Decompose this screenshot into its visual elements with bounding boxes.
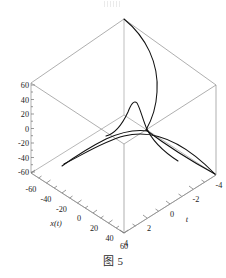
figure-caption: 图 5 [0,252,226,268]
xlabel-m60: -60 [26,185,37,194]
xtick-minor-b [54,186,57,188]
ttick-4 [120,230,124,233]
xlabel-0: 0 [77,214,81,223]
tlabel-4: 4 [124,239,128,248]
tlabel-m2: -2 [193,195,200,204]
xtick-minor-d [85,206,88,208]
axis-vertical-ticks [31,85,35,172]
ttick-2 [143,215,147,218]
xtick-minor-a [39,176,42,178]
tlabel-2: 2 [147,224,151,233]
box-bottom-back-edges [31,115,216,175]
axis-title-xt: x(t) [49,219,62,228]
xlabel-20: 20 [90,224,98,233]
axis-vertical-labels: 60 40 20 0 -20 -40 -60 [18,81,29,177]
tlabel-0: 0 [170,210,174,219]
ttick-minor-b [179,194,182,196]
vlabel-m20: -20 [18,139,29,148]
xtick-m20 [62,190,66,193]
vlabel-40: 40 [21,96,29,105]
plot-3d-canvas: 60 40 20 0 -20 -40 -60 - [0,0,226,250]
xtick-minor-f [116,226,119,228]
ttick-minor-a [202,180,205,182]
axis-t-labels: -4 -2 0 2 4 t [124,181,222,248]
xtick-20 [93,210,97,213]
xtick-minor-e [101,216,104,218]
curve-group [62,19,215,174]
vlabel-m40: -40 [18,154,29,163]
curve-main-arc [124,19,157,130]
vlabel-60: 60 [21,81,29,90]
xtick-minor-c [70,196,73,198]
ttick-minor-d [133,224,136,226]
vlabel-m60: -60 [18,168,29,177]
box-top-face [31,19,216,144]
xlabel-m40: -40 [41,195,52,204]
ttick-minor-c [156,209,159,211]
tlabel-m4: -4 [216,181,223,190]
xtick-m60 [31,170,35,173]
vlabel-0: 0 [25,125,29,134]
xlabel-40: 40 [105,234,113,243]
xlabel-m20: -20 [56,205,67,214]
axis-title-t: t [186,215,189,224]
curve-lower-left-tail [62,130,148,166]
ttick-0 [166,201,170,204]
xtick-0 [78,200,82,203]
curve-hump [106,102,178,161]
ttick-m2 [189,186,193,189]
xtick-40 [109,220,113,223]
axis-xt-labels: -60 -40 -20 0 20 40 60 x(t) [26,185,129,250]
plot-box-wireframe [31,19,216,233]
vlabel-20: 20 [21,110,29,119]
xtick-m40 [47,180,51,183]
axis-t-ticks [120,172,216,233]
curve-crossing-branch [64,134,215,174]
figure-root: 60 40 20 0 -20 -40 -60 - [0,0,226,278]
